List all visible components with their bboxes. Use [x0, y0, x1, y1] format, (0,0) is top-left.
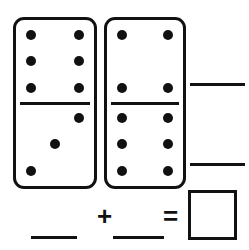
- pip: [117, 30, 127, 40]
- pip: [163, 166, 173, 176]
- blank-bottom-count[interactable]: [190, 163, 245, 166]
- pip-slot-empty: [74, 139, 84, 149]
- pip-slot-empty: [50, 83, 60, 93]
- domino-left-bottom-pips: [16, 103, 94, 186]
- pip: [26, 30, 36, 40]
- pip-slot-empty: [50, 113, 60, 123]
- domino-right-bottom-half: [107, 103, 183, 186]
- pip-slot-empty: [50, 166, 60, 176]
- domino-left-bottom-half: [16, 103, 94, 186]
- pip-slot-empty: [140, 83, 150, 93]
- pip: [117, 139, 127, 149]
- domino-right[interactable]: [104, 17, 186, 189]
- domino-right-bottom-pips: [107, 103, 183, 186]
- pip: [74, 83, 84, 93]
- pip: [117, 166, 127, 176]
- pip: [74, 113, 84, 123]
- equation-left-blank[interactable]: [31, 236, 77, 239]
- pip: [117, 113, 127, 123]
- pip-slot-empty: [140, 56, 150, 66]
- pip: [26, 166, 36, 176]
- pip-slot-empty: [26, 139, 36, 149]
- pip-slot-empty: [50, 56, 60, 66]
- pip: [26, 56, 36, 66]
- pip: [163, 83, 173, 93]
- pip: [74, 30, 84, 40]
- pip-slot-empty: [140, 139, 150, 149]
- equals-symbol: =: [163, 203, 178, 229]
- pip-slot-empty: [140, 166, 150, 176]
- pip-slot-empty: [117, 56, 127, 66]
- pip: [74, 56, 84, 66]
- equation-right-blank[interactable]: [113, 236, 164, 239]
- plus-symbol: +: [97, 203, 112, 229]
- domino-left[interactable]: [13, 17, 97, 189]
- pip: [163, 30, 173, 40]
- domino-right-top-pips: [107, 20, 183, 103]
- domino-left-top-half: [16, 20, 94, 103]
- pip-slot-empty: [140, 113, 150, 123]
- pip-slot-empty: [50, 30, 60, 40]
- pip: [163, 139, 173, 149]
- pip: [26, 83, 36, 93]
- pip-slot-empty: [163, 56, 173, 66]
- pip-slot-empty: [26, 113, 36, 123]
- pip-slot-empty: [74, 166, 84, 176]
- domino-right-top-half: [107, 20, 183, 103]
- blank-top-count[interactable]: [190, 83, 245, 86]
- pip: [117, 83, 127, 93]
- answer-box[interactable]: [188, 190, 237, 240]
- pip: [50, 139, 60, 149]
- pip-slot-empty: [140, 30, 150, 40]
- domino-left-top-pips: [16, 20, 94, 103]
- domino-addition-worksheet: + =: [0, 0, 249, 250]
- pip: [163, 113, 173, 123]
